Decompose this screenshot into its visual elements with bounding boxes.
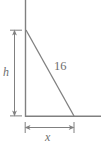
triangle-diagram-canvas (0, 0, 107, 147)
hypotenuse-line (26, 30, 74, 116)
geometry-figure: h 16 x (0, 0, 107, 147)
base-label: x (45, 131, 50, 143)
height-label: h (3, 66, 9, 78)
hypotenuse-label: 16 (54, 60, 67, 73)
height-dimension-group (10, 30, 22, 117)
